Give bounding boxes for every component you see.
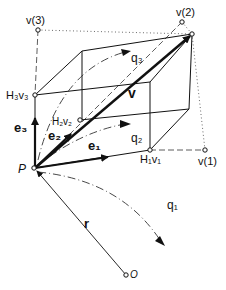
point-h2v2 — [78, 118, 82, 122]
parallelepiped-diagram: v(3) v(2) v(1) H₃v₃ H₂v₂ H₁v₁ e₃ e₂ e₁ q… — [0, 0, 226, 290]
position-vector-r — [37, 171, 126, 275]
label-O: O — [130, 269, 138, 280]
q2-arrowhead — [120, 120, 131, 128]
label-P: P — [18, 162, 26, 176]
point-O — [124, 273, 128, 277]
label-h3v3: H₃v₃ — [6, 89, 28, 101]
point-h1v1 — [148, 148, 152, 152]
label-e2: e₂ — [48, 128, 61, 143]
point-h3v3 — [33, 93, 37, 97]
q3-arrowhead — [121, 49, 131, 56]
label-r: r — [84, 216, 89, 231]
label-v2-proj: v(2) — [176, 6, 195, 18]
point-P — [32, 166, 36, 170]
curve-arrowheads — [120, 49, 165, 246]
point-v1-proj — [203, 148, 207, 152]
label-q2: q₂ — [131, 131, 143, 145]
q1-arrowhead — [155, 236, 165, 246]
point-v2-proj — [180, 20, 184, 24]
label-v: v — [128, 85, 136, 101]
label-v1-proj: v(1) — [198, 155, 217, 167]
label-q1: q₁ — [167, 198, 178, 212]
dotted-projection-lines — [38, 22, 205, 150]
label-h2v2: H₂v₂ — [52, 116, 72, 127]
point-v-tip — [190, 32, 194, 36]
label-q3: q₃ — [131, 51, 143, 65]
label-e3: e₃ — [14, 120, 27, 135]
point-v3-proj — [36, 28, 40, 32]
label-e1: e₁ — [88, 138, 101, 153]
label-v3-proj: v(3) — [26, 14, 45, 26]
label-h1v1: H₁v₁ — [140, 153, 161, 165]
v-vector — [35, 36, 190, 168]
